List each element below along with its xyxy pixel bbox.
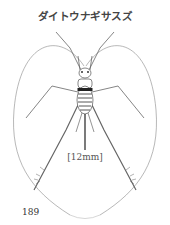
scale-caption: [12mm] xyxy=(0,152,170,162)
cricket-illustration xyxy=(0,0,170,225)
page-number: 189 xyxy=(22,207,39,217)
